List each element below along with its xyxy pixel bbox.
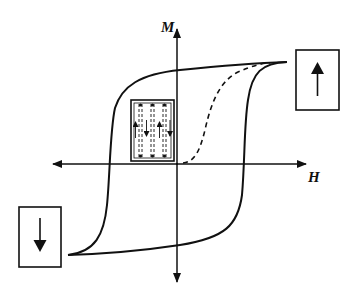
hysteresis-diagram bbox=[0, 0, 352, 294]
saturation-down-box bbox=[19, 207, 61, 267]
initial-magnetization-curve bbox=[183, 63, 270, 163]
m-axis-label: M bbox=[161, 20, 174, 35]
h-axis-label: H bbox=[308, 170, 320, 185]
saturation-up-box bbox=[296, 50, 339, 110]
domain-structure-box bbox=[131, 100, 174, 161]
